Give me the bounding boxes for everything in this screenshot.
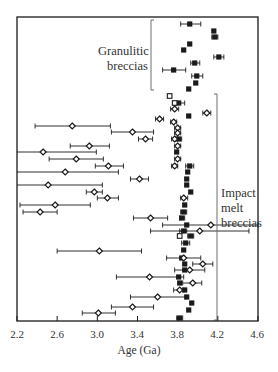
open-diamond-marker bbox=[62, 169, 68, 175]
x-tick-label: 2.2 bbox=[2, 328, 32, 340]
x-tick-label: 4.2 bbox=[202, 328, 232, 340]
impact-melt-label: Impact melt breccias bbox=[221, 186, 262, 231]
open-diamond-marker bbox=[200, 261, 206, 267]
x-tick-label: 3.4 bbox=[122, 328, 152, 340]
open-diamond-marker bbox=[181, 195, 187, 201]
open-diamond-marker bbox=[147, 274, 153, 280]
granulitic-label: Granulitic breccias bbox=[98, 44, 148, 74]
filled-square-marker bbox=[211, 28, 216, 33]
x-axis-ticks bbox=[17, 316, 258, 321]
open-diamond-marker bbox=[104, 195, 110, 201]
impact-label-line3: breccias bbox=[221, 216, 262, 231]
filled-square-marker bbox=[179, 215, 184, 220]
filled-square-marker bbox=[182, 261, 187, 266]
open-diamond-marker bbox=[52, 202, 58, 208]
filled-square-marker bbox=[183, 240, 188, 245]
impact-label-line1: Impact bbox=[221, 186, 262, 201]
granulitic-label-line1: Granulitic bbox=[98, 44, 148, 59]
open-diamond-marker bbox=[204, 110, 210, 116]
open-diamond-marker bbox=[187, 267, 193, 273]
filled-square-marker bbox=[185, 169, 190, 174]
filled-square-marker bbox=[216, 54, 221, 59]
filled-square-marker bbox=[188, 189, 193, 194]
filled-square-marker bbox=[184, 182, 189, 187]
filled-square-marker bbox=[187, 21, 192, 26]
open-diamond-marker bbox=[45, 182, 51, 188]
filled-square-marker bbox=[187, 41, 192, 46]
filled-square-marker bbox=[186, 307, 191, 312]
filled-square-marker bbox=[212, 34, 217, 39]
open-diamond-marker bbox=[155, 294, 161, 300]
x-tick-label: 3.8 bbox=[162, 328, 192, 340]
filled-square-marker bbox=[187, 163, 192, 168]
open-diamond-marker bbox=[95, 310, 101, 316]
open-square-marker bbox=[177, 234, 182, 239]
filled-square-marker bbox=[182, 202, 187, 207]
granulitic-bracket bbox=[151, 20, 154, 90]
open-diamond-marker bbox=[172, 163, 178, 169]
filled-square-marker bbox=[194, 73, 199, 78]
open-diamond-marker bbox=[143, 136, 149, 142]
open-diamond-marker bbox=[172, 106, 178, 112]
open-diamond-marker bbox=[175, 130, 181, 136]
filled-square-marker bbox=[181, 247, 186, 252]
open-square-marker bbox=[167, 94, 172, 99]
x-tick-label: 4.6 bbox=[242, 328, 272, 340]
open-diamond-marker bbox=[86, 143, 92, 149]
open-diamond-marker bbox=[91, 189, 97, 195]
x-tick-label: 2.6 bbox=[42, 328, 72, 340]
open-diamond-marker bbox=[69, 123, 75, 129]
open-diamond-marker bbox=[129, 304, 135, 310]
open-diamond-marker bbox=[177, 287, 183, 293]
open-diamond-marker bbox=[129, 129, 135, 135]
open-diamond-marker bbox=[208, 222, 214, 228]
filled-square-marker bbox=[189, 300, 194, 305]
granulitic-label-line2: breccias bbox=[98, 59, 148, 74]
filled-square-marker bbox=[186, 113, 191, 118]
open-diamond-marker bbox=[37, 209, 43, 215]
open-diamond-marker bbox=[157, 116, 163, 122]
x-axis-label: Age (Ga) bbox=[0, 344, 278, 356]
open-diamond-marker bbox=[190, 280, 196, 286]
open-diamond-marker bbox=[40, 149, 46, 155]
open-diamond-marker bbox=[197, 228, 203, 234]
open-diamond-marker bbox=[96, 248, 102, 254]
open-diamond-marker bbox=[175, 156, 181, 162]
filled-square-marker bbox=[181, 47, 186, 52]
open-diamond-marker bbox=[148, 215, 154, 221]
open-square-marker bbox=[172, 101, 177, 106]
filled-square-marker bbox=[186, 86, 191, 91]
filled-square-marker bbox=[192, 60, 197, 65]
filled-square-marker bbox=[181, 209, 186, 214]
impact-melt-bracket bbox=[214, 94, 217, 320]
filled-square-marker bbox=[177, 280, 182, 285]
open-diamond-marker bbox=[73, 156, 79, 162]
filled-square-marker bbox=[171, 67, 176, 72]
filled-square-marker bbox=[193, 80, 198, 85]
open-diamond-marker bbox=[137, 176, 143, 182]
impact-label-line2: melt bbox=[221, 201, 262, 216]
filled-square-marker bbox=[184, 176, 189, 181]
open-diamond-marker bbox=[105, 163, 111, 169]
x-tick-label: 3.0 bbox=[82, 328, 112, 340]
filled-square-marker bbox=[174, 149, 179, 154]
open-diamond-marker bbox=[171, 119, 177, 125]
filled-square-marker bbox=[188, 233, 193, 238]
open-diamond-marker bbox=[175, 143, 181, 149]
